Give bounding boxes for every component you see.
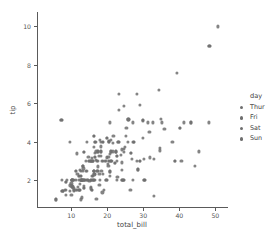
data-point (124, 145, 127, 148)
plot-area: 1020304050 246810 (37, 12, 228, 208)
data-point (85, 140, 88, 143)
data-point (99, 155, 102, 158)
legend-item-label: Sun (250, 134, 262, 143)
data-point (129, 188, 132, 191)
data-point (136, 168, 139, 171)
data-point (126, 140, 129, 143)
data-point (193, 164, 196, 167)
data-point (131, 121, 134, 124)
data-point (82, 150, 85, 153)
data-point (101, 173, 104, 176)
x-tick-label: 20 (103, 212, 111, 219)
legend-item-label: Sat (250, 124, 260, 133)
x-tick-label: 40 (175, 212, 183, 219)
data-point (112, 134, 115, 137)
data-point (93, 173, 96, 176)
data-point (146, 121, 149, 124)
data-point (132, 179, 135, 182)
data-point (98, 179, 101, 182)
y-tick-mark (34, 180, 37, 181)
data-point (115, 179, 118, 182)
legend-item-sun[interactable]: Sun (232, 134, 278, 144)
data-point (64, 193, 67, 196)
legend-marker-icon (240, 137, 243, 140)
legend-title: day (250, 92, 262, 100)
data-point (79, 198, 82, 201)
data-point (208, 44, 211, 47)
data-point (135, 92, 138, 95)
data-point (130, 157, 133, 160)
y-tick-label: 8 (27, 61, 31, 68)
data-point (92, 134, 95, 137)
x-tick-mark (215, 208, 216, 211)
data-point (97, 159, 100, 162)
data-point (142, 158, 145, 161)
x-tick-label: 10 (67, 212, 75, 219)
x-tick-label: 30 (139, 212, 147, 219)
data-point (65, 180, 68, 183)
data-point (152, 157, 155, 160)
legend-item-fri[interactable]: Fri (232, 113, 278, 123)
data-point (161, 121, 164, 124)
y-tick-mark (34, 103, 37, 104)
data-point (99, 145, 102, 148)
scatterplot-figure: 1020304050 246810 total_bill tip day Thu… (0, 0, 280, 239)
data-point (129, 151, 132, 154)
x-tick-mark (143, 208, 144, 211)
data-point (127, 118, 130, 121)
data-point (60, 118, 63, 121)
x-tick-mark (71, 208, 72, 211)
data-point (108, 174, 111, 177)
data-point (98, 183, 101, 186)
data-point (117, 92, 120, 95)
legend-item-thur[interactable]: Thur (232, 103, 278, 113)
y-axis-spine (37, 12, 38, 208)
y-tick-label: 4 (27, 138, 31, 145)
data-point (122, 150, 125, 153)
data-point (113, 162, 116, 165)
data-point (96, 165, 99, 168)
data-point (148, 156, 151, 159)
data-point (141, 136, 144, 139)
data-point (120, 168, 123, 171)
legend-item-sat[interactable]: Sat (232, 124, 278, 134)
data-point (171, 140, 174, 143)
data-point (107, 155, 110, 158)
data-point (70, 193, 73, 196)
data-point (118, 108, 121, 111)
x-tick-mark (107, 208, 108, 211)
data-point (138, 103, 141, 106)
data-point (92, 146, 95, 149)
legend-marker-icon (240, 127, 243, 130)
data-point (178, 126, 181, 129)
y-axis-label: tip (9, 105, 17, 114)
x-axis-spine (37, 207, 228, 208)
legend-item-label: Fri (250, 113, 258, 122)
y-tick-mark (34, 65, 37, 66)
data-point (54, 198, 57, 201)
data-point (105, 179, 108, 182)
y-tick-label: 10 (23, 23, 31, 30)
data-point (173, 159, 176, 162)
y-tick-mark (34, 26, 37, 27)
data-point (124, 135, 127, 138)
data-point (119, 153, 122, 156)
data-point (189, 121, 192, 124)
data-point (95, 198, 98, 201)
data-point (117, 140, 120, 143)
data-point (75, 152, 78, 155)
data-point (116, 175, 119, 178)
data-point (123, 105, 126, 108)
data-point (197, 150, 200, 153)
data-point (90, 188, 93, 191)
data-point (132, 140, 135, 143)
data-point (157, 88, 160, 91)
y-tick-mark (34, 142, 37, 143)
x-axis-label: total_bill (117, 221, 147, 229)
legend-marker-icon (240, 116, 243, 119)
data-point (101, 191, 104, 194)
data-point (82, 187, 85, 190)
data-point (217, 25, 220, 28)
data-point (115, 150, 118, 153)
data-point (151, 121, 154, 124)
